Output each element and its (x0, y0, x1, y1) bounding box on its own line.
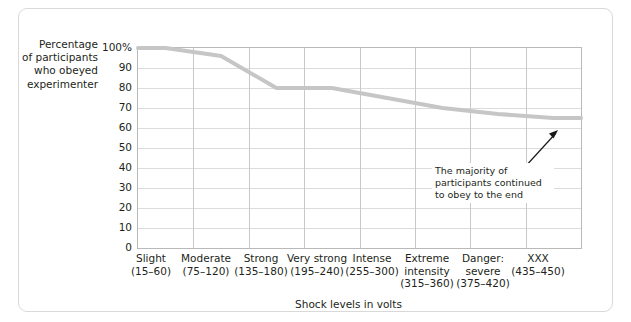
y-axis-title-line-4: experimenter (27, 78, 98, 90)
x-axis-title: Shock levels in volts (295, 298, 402, 310)
annotation-callout: The majority of participants continued t… (432, 163, 554, 203)
gridline-vertical (304, 48, 305, 248)
gridline-vertical (249, 48, 250, 248)
gridline-vertical (415, 48, 416, 248)
y-axis-title: Percentage of participants who obeyed ex… (12, 38, 98, 91)
x-category-range: (435–450) (498, 265, 578, 278)
annotation-line-3: to obey to the end (435, 189, 523, 200)
gridline-vertical (360, 48, 361, 248)
annotation-line-1: The majority of (435, 165, 507, 176)
y-axis-title-line-2: of participants (22, 51, 98, 63)
y-axis-title-line-1: Percentage (39, 38, 98, 50)
annotation-line-2: participants continued (435, 177, 542, 188)
plot-area (137, 47, 582, 249)
gridline-vertical (470, 48, 471, 248)
gridline-vertical (193, 48, 194, 248)
x-category-name: XXX (498, 252, 578, 265)
x-category-label: XXX (435–450) (498, 252, 578, 277)
y-axis-title-line-3: who obeyed (34, 64, 98, 76)
gridline-vertical (526, 48, 527, 248)
x-category-range: (375–420) (443, 277, 523, 290)
x-axis-title-wrap: Shock levels in volts (0, 298, 631, 310)
